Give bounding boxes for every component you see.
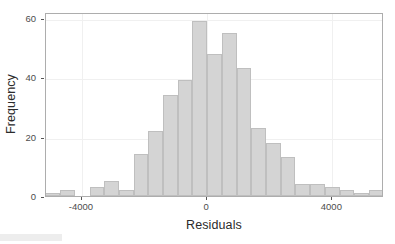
histogram-bar [310, 184, 325, 196]
histogram-bar [237, 68, 252, 196]
histogram-bar [325, 187, 340, 196]
histogram-bar [134, 154, 149, 196]
plot-panel [45, 13, 383, 197]
histogram-bar [340, 190, 355, 196]
histogram-bar [90, 187, 105, 196]
y-axis-title: Frequency [2, 2, 20, 206]
x-tick-mark [206, 197, 207, 200]
x-tick-label: -4000 [56, 201, 106, 212]
histogram-chart: 0204060 -400004000 Frequency Residuals [0, 0, 395, 244]
histogram-bar [251, 128, 266, 196]
histogram-bar [354, 193, 369, 196]
histogram-bar [369, 190, 383, 196]
histogram-bar [192, 21, 207, 196]
histogram-bar [178, 80, 193, 196]
histogram-bar [266, 143, 281, 196]
histogram-bar [281, 157, 296, 196]
x-tick-mark [331, 197, 332, 200]
gridline-x-2 [332, 14, 333, 196]
y-tick-mark [41, 19, 44, 20]
histogram-bar [148, 131, 163, 196]
gridline-x-0 [82, 14, 83, 196]
histogram-bar [207, 54, 222, 196]
histogram-bar [119, 190, 134, 196]
histogram-bar [45, 193, 60, 196]
bottom-watermark-strip [0, 234, 62, 241]
x-tick-label: 0 [181, 201, 231, 212]
x-axis-title: Residuals [45, 218, 383, 232]
histogram-bar [295, 184, 310, 196]
histogram-bar [104, 181, 119, 196]
y-tick-mark [41, 138, 44, 139]
histogram-bar [222, 33, 237, 196]
histogram-bar [163, 95, 178, 196]
y-tick-mark [41, 78, 44, 79]
y-tick-mark [41, 197, 44, 198]
histogram-bar [60, 190, 75, 196]
x-tick-mark [81, 197, 82, 200]
x-tick-label: 4000 [306, 201, 356, 212]
